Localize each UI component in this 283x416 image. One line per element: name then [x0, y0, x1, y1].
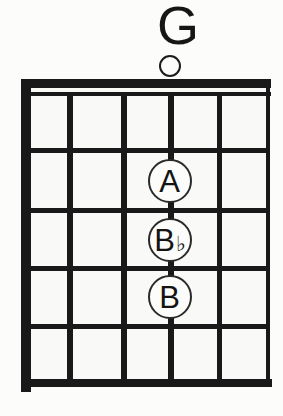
note-label: B	[159, 282, 180, 313]
string-line-6	[266, 79, 270, 387]
fretboard-background	[21, 79, 271, 387]
fret-line-2	[21, 208, 270, 213]
note-accidental: ♭	[176, 233, 186, 254]
fret-line-3	[21, 266, 270, 271]
fret-line-1	[21, 148, 270, 153]
note-label: B	[154, 225, 175, 256]
fret-line-4	[21, 324, 270, 329]
string-line-3	[121, 92, 127, 385]
string-line-5	[217, 92, 222, 385]
note-marker-b: B	[148, 275, 192, 319]
chord-title: G	[149, 0, 207, 53]
fret-line-bottom	[21, 379, 272, 387]
string-line-1	[21, 79, 31, 392]
note-label: A	[159, 166, 180, 197]
chord-diagram-page: G A B♭ B	[0, 0, 283, 416]
string-line-2	[67, 92, 73, 385]
note-marker-b-flat: B♭	[148, 218, 192, 262]
nut-line-thick	[21, 79, 271, 88]
open-string-marker-icon	[159, 55, 181, 77]
note-marker-a: A	[148, 159, 192, 203]
